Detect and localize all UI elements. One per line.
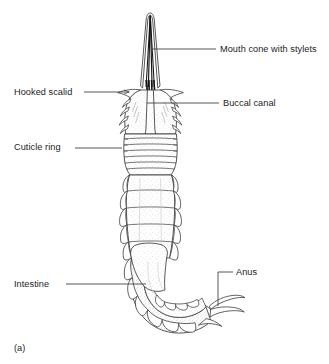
label-anus: Anus: [236, 267, 257, 278]
label-hooked-scalid: Hooked scalid: [14, 87, 72, 98]
stylet-base-4: [153, 80, 155, 90]
introvert-head-group: [118, 89, 184, 134]
cuticle-ring-zone-group: [124, 134, 177, 175]
terminal-spine-middle: [210, 307, 244, 317]
label-cuticle-ring: Cuticle ring: [14, 142, 61, 153]
label-mouth-cone: Mouth cone with stylets: [220, 44, 317, 55]
label-buccal-canal: Buccal canal: [223, 98, 276, 109]
anatomical-figure: Mouth cone with stylets Hooked scalid Bu…: [0, 0, 329, 364]
stylet-base-2: [148, 80, 150, 90]
figure-caption: (a): [14, 343, 25, 353]
organism-body-group: [118, 13, 245, 333]
mouth-cone-group: [141, 13, 161, 90]
label-intestine: Intestine: [14, 279, 49, 290]
